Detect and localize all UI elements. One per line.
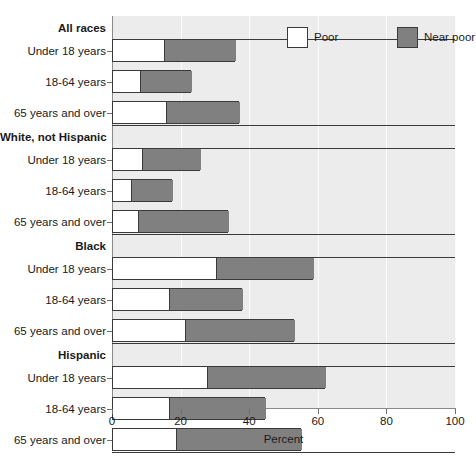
row-label: 65 years and over: [0, 210, 106, 234]
bar-segment-poor[interactable]: [113, 102, 166, 123]
chart-row: 65 years and over: [0, 319, 476, 343]
row-label: 65 years and over: [0, 428, 106, 452]
x-tick-100: [455, 409, 456, 414]
bar-segment-near-poor[interactable]: [138, 211, 229, 232]
row-label: 18-64 years: [0, 397, 106, 421]
chart-row: Under 18 years: [0, 257, 476, 281]
x-tick-60: [318, 409, 319, 414]
bar-segment-near-poor[interactable]: [166, 102, 240, 123]
cropped-header-text: [12, 0, 352, 4]
legend-swatch-icon: [287, 27, 308, 48]
bar-segment-poor[interactable]: [113, 211, 138, 232]
stacked-bar[interactable]: [112, 366, 325, 389]
row-label: 65 years and over: [0, 319, 106, 343]
bar-segment-near-poor[interactable]: [207, 367, 325, 388]
row-label: Under 18 years: [0, 366, 106, 390]
chart-row: 65 years and over: [0, 101, 476, 125]
stacked-bar[interactable]: [112, 101, 239, 124]
group-label-hispanic: Hispanic: [0, 344, 106, 366]
stacked-bar[interactable]: [112, 148, 200, 171]
group-separator: [112, 452, 455, 453]
bar-segment-poor[interactable]: [113, 149, 142, 170]
group-label-all-races: All races: [0, 17, 106, 39]
chart-row: 65 years and over: [0, 210, 476, 234]
bar-segment-near-poor[interactable]: [169, 289, 243, 310]
legend-entry-near-poor[interactable]: Near poor: [397, 25, 475, 49]
group-label-black: Black: [0, 235, 106, 257]
row-label: 18-64 years: [0, 70, 106, 94]
poverty-status-bar-chart: All racesUnder 18 years18-64 years65 yea…: [0, 0, 476, 462]
stacked-bar[interactable]: [112, 210, 228, 233]
group-header-row: White, not Hispanic: [0, 126, 476, 148]
chart-row: Under 18 years: [0, 366, 476, 390]
stacked-bar[interactable]: [112, 179, 172, 202]
chart-row: 18-64 years: [0, 179, 476, 203]
row-label: Under 18 years: [0, 39, 106, 63]
x-axis-title: Percent: [112, 433, 455, 445]
legend-swatch-icon: [397, 27, 418, 48]
bar-segment-near-poor[interactable]: [216, 258, 314, 279]
bar-segment-near-poor[interactable]: [142, 149, 201, 170]
bar-segment-poor[interactable]: [113, 289, 169, 310]
bar-segment-near-poor[interactable]: [131, 180, 173, 201]
bar-segment-near-poor[interactable]: [164, 40, 236, 61]
row-label: 65 years and over: [0, 101, 106, 125]
stacked-bar[interactable]: [112, 257, 313, 280]
x-tick-label-20: 20: [161, 415, 201, 427]
stacked-bar[interactable]: [112, 319, 294, 342]
bar-segment-poor[interactable]: [113, 258, 216, 279]
x-tick-label-0: 0: [92, 415, 132, 427]
bar-segment-poor[interactable]: [113, 180, 131, 201]
x-tick-label-80: 80: [366, 415, 406, 427]
chart-row: Under 18 years: [0, 148, 476, 172]
x-tick-40: [249, 409, 250, 414]
bar-segment-poor[interactable]: [113, 40, 164, 61]
bar-segment-poor[interactable]: [113, 367, 207, 388]
row-label: 18-64 years: [0, 179, 106, 203]
x-tick-80: [386, 409, 387, 414]
row-label: Under 18 years: [0, 148, 106, 172]
stacked-bar[interactable]: [112, 70, 191, 93]
group-header-row: Black: [0, 235, 476, 257]
stacked-bar[interactable]: [112, 288, 242, 311]
chart-row: 18-64 years: [0, 70, 476, 94]
group-header-row: Hispanic: [0, 344, 476, 366]
stacked-bar[interactable]: [112, 39, 235, 62]
legend-label: Near poor: [424, 31, 475, 43]
group-label-white-not-hispanic: White, not Hispanic: [0, 126, 106, 148]
x-tick-20: [181, 409, 182, 414]
x-tick-label-40: 40: [229, 415, 269, 427]
legend-label: Poor: [314, 31, 338, 43]
bar-segment-near-poor[interactable]: [140, 71, 191, 92]
chart-row: 18-64 years: [0, 288, 476, 312]
row-label: 18-64 years: [0, 288, 106, 312]
row-label: Under 18 years: [0, 257, 106, 281]
x-tick-label-60: 60: [298, 415, 338, 427]
bar-segment-poor[interactable]: [113, 320, 185, 341]
legend-entry-poor[interactable]: Poor: [287, 25, 338, 49]
bar-segment-poor[interactable]: [113, 71, 140, 92]
x-tick-0: [112, 409, 113, 414]
bar-segment-near-poor[interactable]: [185, 320, 295, 341]
x-tick-label-100: 100: [435, 415, 475, 427]
